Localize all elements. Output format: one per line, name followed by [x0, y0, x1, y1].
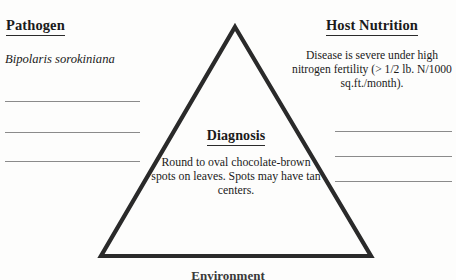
pathogen-blank-line-3: [5, 161, 140, 162]
diagnosis-heading: Diagnosis: [207, 128, 265, 146]
diagnosis-panel: Diagnosis Round to oval chocolate-brown …: [148, 126, 324, 198]
host-nutrition-blank-line-3: [335, 181, 452, 182]
host-nutrition-body: Disease is severe under high nitrogen fe…: [292, 49, 452, 92]
host-nutrition-blank-line-1: [335, 131, 452, 132]
host-nutrition-heading: Host Nutrition: [326, 17, 418, 36]
pathogen-panel: Pathogen Bipolaris sorokiniana: [5, 16, 155, 67]
pathogen-blank-line-1: [5, 101, 140, 102]
pathogen-blank-line-2: [5, 132, 140, 133]
host-nutrition-blank-line-2: [335, 156, 452, 157]
diagnosis-body: Round to oval chocolate-brown spots on l…: [148, 155, 324, 198]
pathogen-species-name: Bipolaris sorokiniana: [5, 52, 155, 67]
disease-triangle-figure: Pathogen Bipolaris sorokiniana Host Nutr…: [0, 0, 456, 280]
pathogen-heading: Pathogen: [6, 17, 65, 36]
host-nutrition-panel: Host Nutrition Disease is severe under h…: [292, 16, 452, 92]
environment-caption: Environment: [0, 268, 456, 280]
